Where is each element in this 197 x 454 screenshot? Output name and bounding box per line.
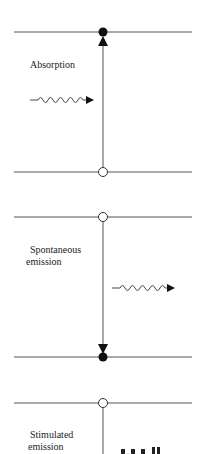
panel-label-line1: Stimulated bbox=[30, 429, 73, 440]
incoming-photon-wave-icon bbox=[30, 98, 86, 103]
filled-electron-icon bbox=[99, 28, 108, 37]
panel-label: Absorption bbox=[30, 59, 75, 70]
hollow-electron-icon bbox=[99, 213, 108, 222]
upward-arrowhead-icon bbox=[98, 36, 108, 46]
partial-photon-icon bbox=[121, 447, 160, 454]
panel-label-line2: emission bbox=[26, 256, 62, 267]
hollow-electron-icon bbox=[99, 399, 108, 408]
hollow-electron-icon bbox=[99, 168, 108, 177]
photon-arrowhead-icon bbox=[86, 96, 94, 104]
energy-transition-diagram: Absorption Spontaneous emission Stimulat… bbox=[0, 0, 197, 454]
panel-spontaneous-emission: Spontaneous emission bbox=[14, 213, 192, 362]
panel-stimulated-emission: Stimulated emission bbox=[14, 399, 192, 454]
panel-absorption: Absorption bbox=[14, 28, 192, 177]
filled-electron-icon bbox=[99, 353, 108, 362]
outgoing-photon-wave-icon bbox=[112, 286, 167, 291]
photon-arrowhead-icon bbox=[167, 284, 175, 292]
panel-label-line1: Spontaneous bbox=[30, 244, 81, 255]
panel-label-line2: emission bbox=[28, 441, 64, 452]
